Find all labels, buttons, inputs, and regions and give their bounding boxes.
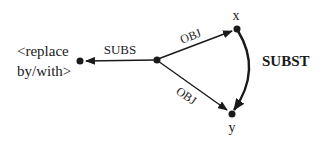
node-center <box>154 57 161 64</box>
edge-obj-x: OBJ <box>158 26 232 59</box>
node-label-y: y <box>229 120 236 135</box>
edge-label-subs: SUBS <box>104 42 137 57</box>
edge-obj-y: OBJ <box>158 61 227 110</box>
node-label-replace-line2: by/with> <box>17 63 71 79</box>
node-y <box>229 111 236 118</box>
edge-label-subst: SUBST <box>262 53 310 69</box>
edge-subs: SUBS <box>86 42 155 61</box>
edge-subst: SUBST <box>234 31 310 110</box>
node-label-replace-line1: <replace <box>17 43 69 59</box>
node-x <box>234 26 241 33</box>
dependency-diagram: SUBS OBJ OBJ SUBST <replace by/with> x y <box>0 0 330 142</box>
node-label-x: x <box>233 8 240 23</box>
node-replace <box>77 58 84 65</box>
